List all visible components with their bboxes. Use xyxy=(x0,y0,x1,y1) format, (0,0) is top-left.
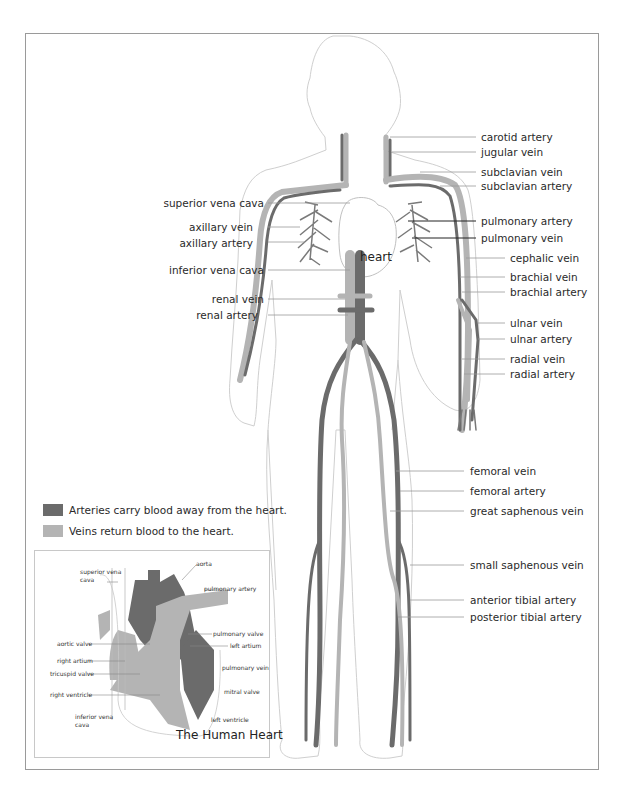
inset-label-left-artium: left artium xyxy=(230,642,261,650)
inset-label-superior-vena-cava: superior vena cava xyxy=(80,568,121,584)
label-small-saphenous-vein: small saphenous vein xyxy=(470,559,584,572)
artery-swatch xyxy=(43,504,63,516)
label-ulnar-vein: ulnar vein xyxy=(510,317,563,330)
inset-label-pulmonary-vein: pulmonary vein xyxy=(222,664,269,672)
heart-inset-box xyxy=(34,550,270,758)
label-radial-artery: radial artery xyxy=(510,368,575,381)
leader-lines-left xyxy=(268,203,350,315)
label-great-saphenous-vein: great saphenous vein xyxy=(470,505,584,518)
label-renal-artery: renal artery xyxy=(196,309,258,322)
label-jugular-vein: jugular vein xyxy=(481,146,543,159)
label-subclavian-artery: subclavian artery xyxy=(481,180,572,193)
inset-label-pulmonary-artery: pulmonary artery xyxy=(204,585,256,593)
label-superior-vena-cava: superior vena cava xyxy=(163,197,264,210)
inset-label-pulmonary-valve: pulmonary valve xyxy=(213,630,263,638)
label-subclavian-vein: subclavian vein xyxy=(481,166,563,179)
label-posterior-tibial-artery: posterior tibial artery xyxy=(470,611,582,624)
legend-artery: Arteries carry blood away from the heart… xyxy=(43,504,287,516)
heart-inset-title: The Human Heart xyxy=(176,728,283,742)
label-pulmonary-artery: pulmonary artery xyxy=(481,215,573,228)
leader-lines-right xyxy=(390,137,505,617)
legend-vein-text: Veins return blood to the heart. xyxy=(69,525,234,537)
label-ulnar-artery: ulnar artery xyxy=(510,333,572,346)
label-inferior-vena-cava: inferior vena cava xyxy=(169,264,264,277)
neck-vessels xyxy=(342,135,390,185)
label-anterior-tibial-artery: anterior tibial artery xyxy=(470,594,576,607)
inset-label-right-artium: right artium xyxy=(57,657,93,665)
label-carotid-artery: carotid artery xyxy=(481,131,553,144)
label-pulmonary-vein: pulmonary vein xyxy=(481,232,563,245)
label-renal-vein: renal vein xyxy=(212,293,264,306)
heart-label: heart xyxy=(360,250,392,264)
label-axillary-artery: axillary artery xyxy=(179,237,253,250)
label-radial-vein: radial vein xyxy=(510,353,565,366)
label-brachial-vein: brachial vein xyxy=(510,271,578,284)
label-axillary-vein: axillary vein xyxy=(189,221,253,234)
label-femoral-artery: femoral artery xyxy=(470,485,546,498)
inset-label-left-ventricle: left ventricle xyxy=(211,716,249,724)
label-cephalic-vein: cephalic vein xyxy=(510,252,579,265)
legend-vein: Veins return blood to the heart. xyxy=(43,525,234,537)
inset-label-inferior-vena-cava: inferior vena cava xyxy=(75,713,113,729)
label-brachial-artery: brachial artery xyxy=(510,286,587,299)
inset-label-right-ventricle: right ventricle xyxy=(50,691,92,699)
label-femoral-vein: femoral vein xyxy=(470,465,536,478)
inset-label-mitral-valve: mitral valve xyxy=(224,688,260,696)
inset-label-aortic-valve: aortic valve xyxy=(57,640,92,648)
inset-label-tricuspid-valve: tricuspid valve xyxy=(50,670,94,678)
inset-label-aorta: aorta xyxy=(196,560,212,568)
vein-swatch xyxy=(43,525,63,537)
legend-artery-text: Arteries carry blood away from the heart… xyxy=(69,504,287,516)
